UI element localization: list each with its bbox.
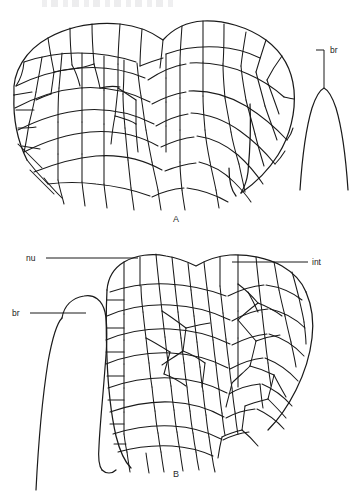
- leader-line-br-a: [316, 50, 324, 88]
- figure-canvas: br A: [0, 0, 351, 491]
- label-nu: nu: [26, 253, 36, 263]
- panel-b-cell-network: [106, 254, 306, 473]
- panel-a-bract-structure: [300, 88, 348, 190]
- panel-a: br A: [14, 21, 348, 224]
- panel-b-outline: [106, 255, 313, 468]
- label-int: int: [312, 257, 322, 267]
- panel-a-cell-network: [14, 21, 294, 210]
- panel-b-bract-structure: [36, 296, 116, 490]
- label-br-a: br: [330, 45, 338, 55]
- label-br-b: br: [12, 308, 20, 318]
- panel-b-label-int: int: [232, 257, 322, 267]
- panel-a-label-br: br: [316, 45, 338, 88]
- panel-letter-b: B: [173, 469, 179, 479]
- panel-b-label-nu: nu: [26, 253, 138, 263]
- panel-letter-a: A: [173, 214, 179, 224]
- panel-b-label-br: br: [12, 308, 86, 318]
- panel-b: nu int br B: [12, 253, 322, 490]
- figure-root: br A: [0, 0, 351, 491]
